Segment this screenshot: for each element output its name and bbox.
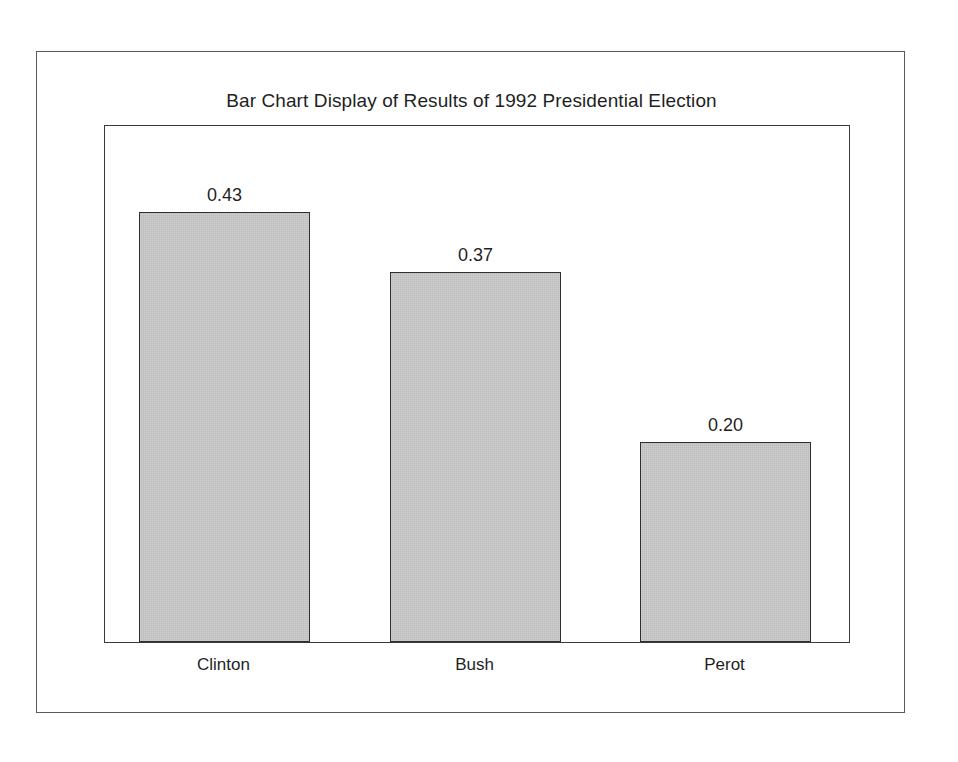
bar-group-clinton: 0.43 [139, 124, 310, 642]
bar-value-label-perot: 0.20 [640, 415, 811, 436]
bar-perot [640, 442, 811, 642]
bar-clinton [139, 212, 310, 642]
bar-bush [390, 272, 561, 642]
bar-value-label-clinton: 0.43 [139, 185, 310, 206]
figure-border: Bar Chart Display of Results of 1992 Pre… [36, 51, 905, 713]
plot-area: 0.430.370.20 [104, 125, 850, 643]
category-label-clinton: Clinton [138, 655, 309, 675]
bars-layer: 0.430.370.20 [105, 126, 849, 642]
bar-group-bush: 0.37 [390, 124, 561, 642]
chart-title: Bar Chart Display of Results of 1992 Pre… [37, 90, 906, 112]
bar-group-perot: 0.20 [640, 124, 811, 642]
bar-value-label-bush: 0.37 [390, 245, 561, 266]
category-label-perot: Perot [639, 655, 810, 675]
category-label-bush: Bush [389, 655, 560, 675]
